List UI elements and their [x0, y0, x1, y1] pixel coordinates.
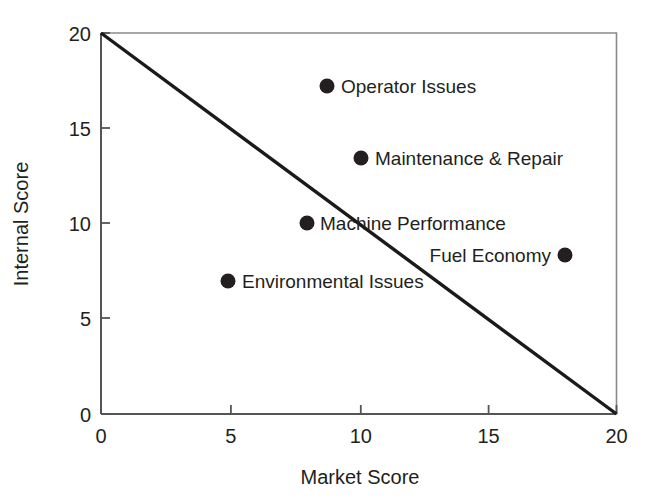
x-tick-label-10: 10: [350, 425, 372, 447]
x-axis-ticks: [101, 405, 617, 414]
x-tick-labels: 0 5 10 15 20: [95, 425, 627, 447]
x-tick-label-5: 5: [225, 425, 236, 447]
y-tick-label-15: 15: [69, 118, 91, 140]
y-axis-ticks: [101, 33, 110, 414]
y-tick-label-5: 5: [80, 308, 91, 330]
data-point-maintenance-repair[interactable]: Maintenance & Repair: [354, 148, 564, 169]
data-point-machine-performance[interactable]: Machine Performance: [300, 213, 506, 234]
marker-dot[interactable]: [558, 248, 573, 263]
x-tick-label-15: 15: [477, 425, 499, 447]
x-tick-label-0: 0: [95, 425, 106, 447]
chart-canvas: 20 15 10 5 0 0 5 10 15 20 Market Score I…: [0, 0, 660, 500]
x-tick-label-20: 20: [605, 425, 627, 447]
y-tick-label-20: 20: [69, 23, 91, 45]
x-axis-title: Market Score: [301, 466, 420, 488]
scatter-chart: 20 15 10 5 0 0 5 10 15 20 Market Score I…: [0, 0, 660, 500]
data-point-environmental-issues[interactable]: Environmental Issues: [221, 271, 424, 292]
marker-dot[interactable]: [320, 79, 335, 94]
data-point-fuel-economy[interactable]: Fuel Economy: [430, 245, 573, 266]
y-tick-label-10: 10: [69, 213, 91, 235]
data-point-operator-issues[interactable]: Operator Issues: [320, 76, 477, 97]
y-tick-labels: 20 15 10 5 0: [69, 23, 91, 426]
point-label-fuel-economy: Fuel Economy: [430, 245, 552, 266]
point-label-machine-performance: Machine Performance: [320, 213, 506, 234]
marker-dot[interactable]: [221, 274, 236, 289]
point-label-maintenance-repair: Maintenance & Repair: [375, 148, 564, 169]
y-tick-label-0: 0: [80, 404, 91, 426]
marker-dot[interactable]: [300, 216, 315, 231]
y-axis-title: Internal Score: [10, 162, 32, 287]
point-label-environmental-issues: Environmental Issues: [242, 271, 424, 292]
marker-dot[interactable]: [354, 151, 369, 166]
point-label-operator-issues: Operator Issues: [341, 76, 476, 97]
